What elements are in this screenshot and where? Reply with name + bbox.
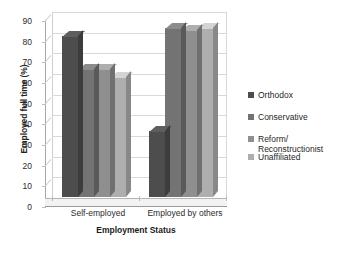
bar-chart-figure: Employed full time (%) 01020304050607080… <box>0 0 348 257</box>
bar-side-face <box>78 30 83 197</box>
y-tick-label: 80 <box>8 38 32 46</box>
x-tick-mark <box>226 196 227 201</box>
bar-side-face <box>94 63 99 197</box>
bar-side-face <box>110 63 115 197</box>
bar-front-face <box>149 131 165 197</box>
x-tick-mark <box>52 196 53 201</box>
y-tick-label: 60 <box>8 79 32 87</box>
y-tick-label: 20 <box>8 162 32 170</box>
y-tick-label: 50 <box>8 100 32 108</box>
x-axis-title: Employment Status <box>45 225 227 235</box>
bar-side-face <box>165 125 170 197</box>
legend-label: Reform/ Reconstructionist <box>258 134 323 154</box>
y-tick-mark <box>42 207 46 208</box>
legend-swatch-icon <box>248 154 254 160</box>
x-tick-label: Self-employed <box>48 208 148 218</box>
legend-item[interactable]: Conservative <box>248 112 308 122</box>
legend-swatch-icon <box>248 114 254 120</box>
x-tick-label: Employed by others <box>135 208 235 218</box>
legend-swatch-icon <box>248 136 254 142</box>
y-tick-label: 30 <box>8 141 32 149</box>
bar-front-face <box>62 36 78 197</box>
x-tick-mark <box>139 196 140 201</box>
y-axis-back-line <box>52 12 53 198</box>
legend-item[interactable]: Orthodox <box>248 90 293 100</box>
plot-floor-edge <box>45 206 227 207</box>
bar-side-face <box>197 24 202 197</box>
y-tick-label: 40 <box>8 120 32 128</box>
y-axis-tick-labels: 0102030405060708090 <box>8 8 32 208</box>
bar-side-face <box>181 22 186 197</box>
y-axis-line <box>45 20 46 206</box>
bar-side-face <box>126 71 131 197</box>
legend-item[interactable]: Reform/ Reconstructionist <box>248 134 323 154</box>
gridline-depth-connector <box>45 14 52 22</box>
bar <box>62 36 78 197</box>
legend-label: Conservative <box>258 112 308 122</box>
y-tick-label: 0 <box>8 203 32 211</box>
plot-area <box>45 12 227 206</box>
legend-label: Unaffiliated <box>258 152 300 162</box>
gridline <box>52 12 227 13</box>
bar <box>149 131 165 197</box>
y-tick-label: 10 <box>8 182 32 190</box>
bar-side-face <box>213 22 218 197</box>
legend-item[interactable]: Unaffiliated <box>248 152 300 162</box>
legend-label: Orthodox <box>258 90 293 100</box>
y-tick-label: 70 <box>8 58 32 66</box>
y-tick-label: 90 <box>8 17 32 25</box>
legend-swatch-icon <box>248 92 254 98</box>
